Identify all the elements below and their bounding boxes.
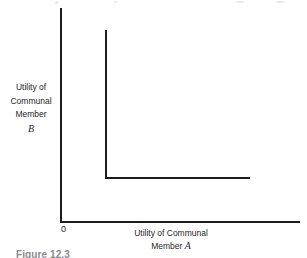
x-axis-label-line-2-text: Member — [151, 241, 185, 251]
x-axis-label-line-1: Utility of Communal — [112, 227, 230, 240]
y-axis-label-line-2: Communal — [4, 95, 58, 109]
frontier-vertical-segment — [105, 30, 107, 179]
figure-caption: Figure 12.3 — [16, 249, 70, 258]
scan-speckle — [236, 1, 244, 3]
figure-container: 0 Utility of Communal Member B Utility o… — [0, 0, 307, 258]
y-axis-label: Utility of Communal Member B — [4, 81, 58, 135]
x-axis-label-line-2: Member A — [112, 240, 230, 253]
cropped-top-text — [22, 0, 297, 3]
origin-tick-label: 0 — [61, 224, 66, 235]
scan-speckle — [276, 1, 285, 3]
scan-speckle — [55, 1, 58, 4]
y-axis-label-line-1: Utility of — [4, 81, 58, 95]
y-axis-label-line-3: Member — [4, 108, 58, 122]
x-axis-label-symbol: A — [185, 240, 191, 251]
frontier-horizontal-segment — [105, 177, 250, 179]
y-axis-line — [60, 8, 62, 223]
y-axis-label-symbol: B — [4, 122, 58, 136]
x-axis-label: Utility of Communal Member A — [112, 227, 230, 252]
scan-speckle — [114, 1, 117, 3]
x-axis-line — [60, 221, 300, 223]
